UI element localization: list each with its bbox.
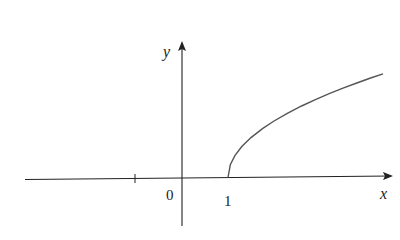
x-axis-label: x [379, 185, 387, 202]
x-one-label: 1 [224, 193, 232, 209]
y-axis-label: y [161, 43, 171, 61]
sqrt-curve [228, 74, 383, 178]
origin-label: 0 [166, 187, 174, 203]
sqrt-function-graph: y x 0 1 [0, 0, 400, 240]
x-axis [25, 176, 391, 180]
